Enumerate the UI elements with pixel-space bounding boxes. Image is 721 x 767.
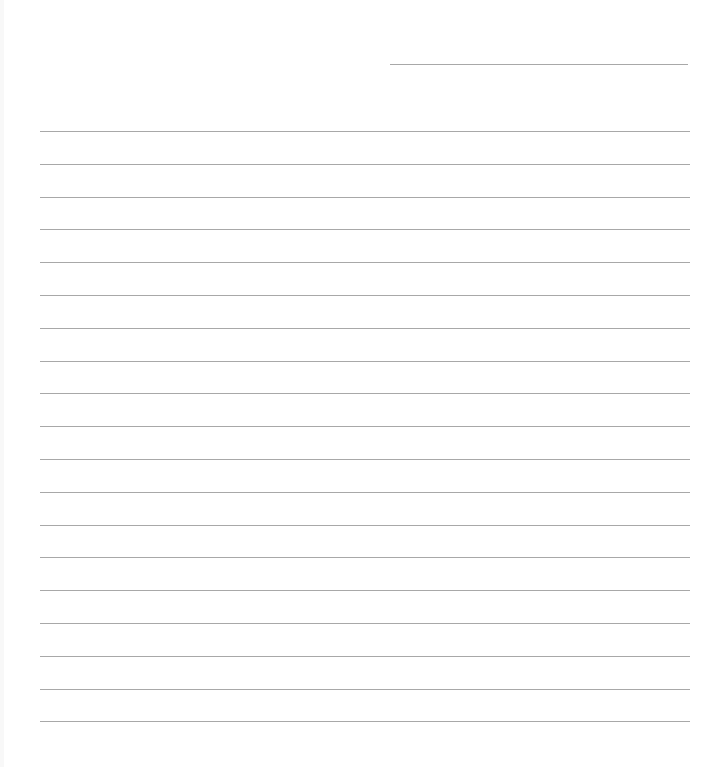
ruled-line <box>40 525 690 526</box>
header-line <box>390 64 688 65</box>
ruled-line <box>40 164 690 165</box>
ruled-line <box>40 295 690 296</box>
ruled-line <box>40 328 690 329</box>
ruled-line <box>40 459 690 460</box>
ruled-line <box>40 689 690 690</box>
ruled-line <box>40 197 690 198</box>
ruled-line <box>40 393 690 394</box>
ruled-line <box>40 721 690 722</box>
ruled-line <box>40 590 690 591</box>
ruled-line <box>40 361 690 362</box>
page-edge <box>0 0 4 767</box>
ruled-line <box>40 426 690 427</box>
ruled-line <box>40 262 690 263</box>
ruled-line <box>40 656 690 657</box>
ruled-line <box>40 492 690 493</box>
ruled-line <box>40 131 690 132</box>
ruled-line <box>40 557 690 558</box>
ruled-line <box>40 623 690 624</box>
ruled-line <box>40 229 690 230</box>
